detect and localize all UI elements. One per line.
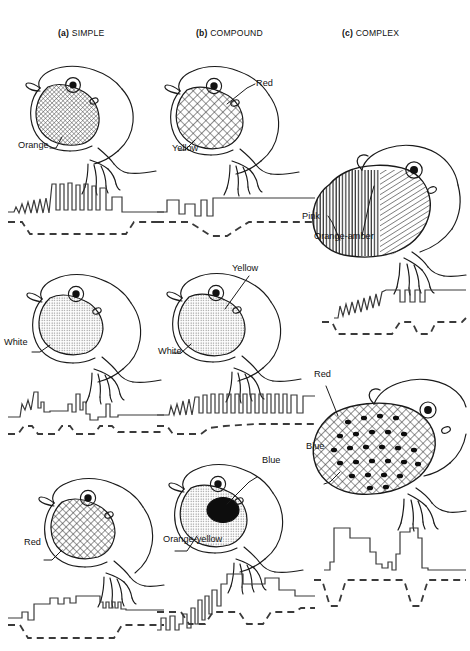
label-white-b2: White [158,347,182,356]
label-orange-yellow-b3: Orange-yellow [163,535,222,544]
head-bob-trace-a2 [8,392,164,420]
panel-a2: White [6,252,166,447]
label-red-b1: Red [256,79,273,88]
panel-b3: Blue Orange-yellow [155,448,320,648]
label-red-c2: Red [314,370,331,379]
head-bob-trace-c2 [324,528,466,570]
column-name-c: COMPLEX [356,28,399,38]
dewlap-shape-a1 [36,85,99,146]
label-orange-a1: Orange [18,141,49,150]
dewlap-shape-a3 [51,499,115,559]
dewlap-shape-b1 [176,87,243,149]
label-yellow-b2: Yellow [232,264,258,273]
dewlap-extension-trace-a3 [8,625,164,638]
panel-b1: Red Yellow [155,52,320,242]
head-bob-trace-b1 [157,198,315,216]
column-heading-b: (b) COMPOUND [196,28,263,38]
dewlap-zone-orange-amber-c1 [380,170,430,256]
label-blue-c2: Blue [306,442,324,451]
label-white-a2: White [4,338,28,347]
column-letter-a: (a) [58,28,69,38]
label-leader-red-c2 [326,386,338,416]
panel-c2: Red Blue [300,362,466,542]
head-bob-trace-b2 [157,394,315,415]
panel-b3-graphic [155,448,320,648]
column-letter-b: (b) [196,28,208,38]
panel-a2-graphic [6,252,166,447]
label-red-a3: Red [24,538,41,547]
dewlap-extension-trace-b2 [157,424,315,434]
dewlap-blue-spot-b3 [207,498,239,523]
dewlap-extension-trace-a1 [8,222,164,234]
panel-a1: Orange [6,52,166,242]
label-leader-yellow-b2 [225,276,249,309]
panel-c2-graphic [300,362,466,542]
label-yellow-b1: Yellow [172,144,198,153]
column-name-b: COMPOUND [210,28,263,38]
column-heading-a: (a) SIMPLE [58,28,104,38]
head-bob-trace-b3 [157,574,315,630]
panel-c1: Pink Orange-amber [300,130,466,320]
label-orange-amber-c1: Orange-amber [314,232,374,241]
column-heading-c: (c) COMPLEX [342,28,399,38]
panel-a3: Red [6,452,166,647]
panel-b2: Yellow White [155,252,320,442]
head-bob-trace-a1 [8,183,164,213]
panel-c1-waveform [304,282,470,352]
dewlap-extension-trace-c1 [322,318,466,334]
label-leader-blue-b3 [227,477,257,504]
column-letter-c: (c) [342,28,353,38]
label-pink-c1: Pink [302,212,320,221]
dewlap-extension-trace-b3 [157,608,315,624]
dewlap-extension-trace-b1 [157,222,315,236]
panel-c2-waveform [304,524,470,624]
head-bob-trace-a3 [8,596,164,620]
label-blue-b3: Blue [262,456,280,465]
column-name-a: SIMPLE [72,28,105,38]
head-bob-trace-c1 [334,290,466,318]
dewlap-extension-trace-c2 [314,580,466,606]
dewlap-extension-trace-a2 [8,426,164,434]
label-leader-red-b1 [227,84,255,104]
panel-a3-graphic [6,452,166,647]
